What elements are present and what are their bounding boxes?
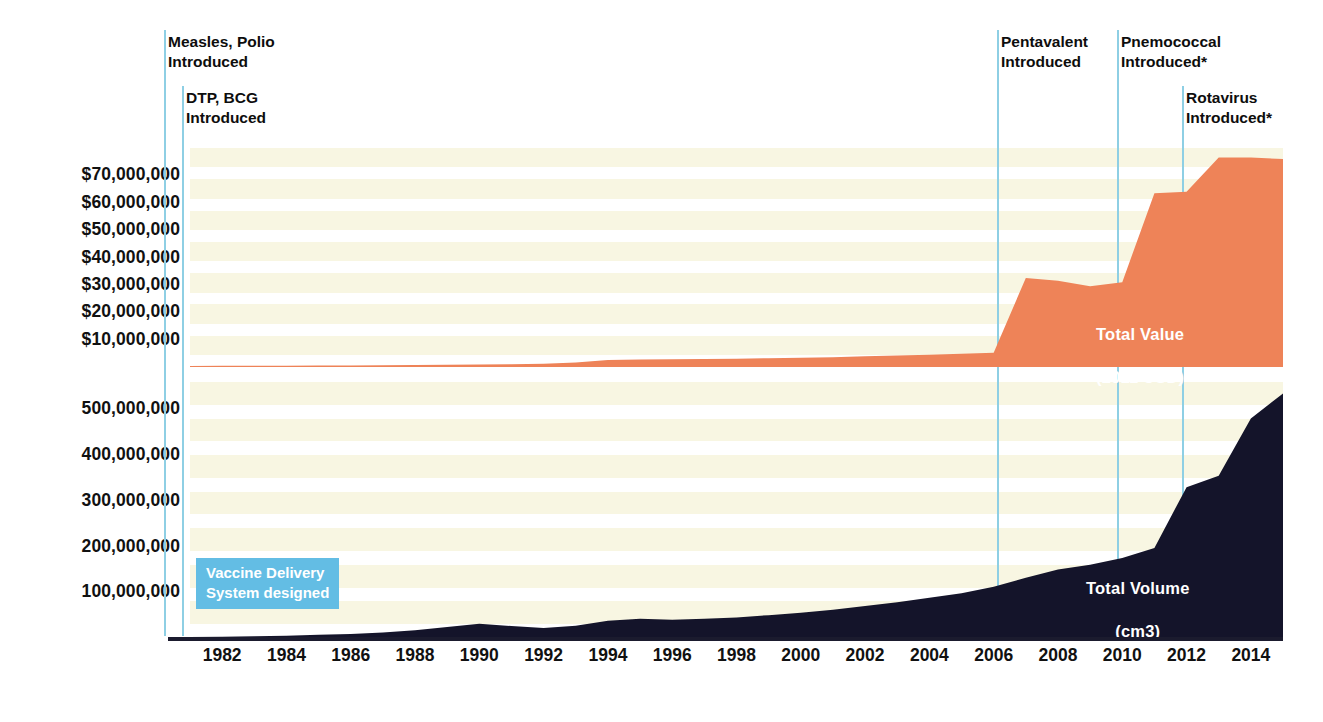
annotation-label-rotavirus: Rotavirus Introduced* — [1186, 88, 1272, 128]
x-axis-tick-label: 1982 — [203, 645, 242, 666]
x-axis-tick-label: 2008 — [1039, 645, 1078, 666]
series-label-total-value-line1: Total Value — [1096, 325, 1184, 343]
x-axis-line — [168, 637, 1283, 641]
x-axis-tick-label: 2002 — [846, 645, 885, 666]
series-label-total-volume-line1: Total Volume — [1086, 579, 1190, 597]
x-axis-tick-label: 1988 — [396, 645, 435, 666]
x-axis-tick-label: 1994 — [588, 645, 627, 666]
x-axis-tick-label: 2000 — [781, 645, 820, 666]
annotation-label-pnemococcal: Pnemococcal Introduced* — [1121, 32, 1221, 72]
x-axis-tick-label: 2006 — [974, 645, 1013, 666]
annotation-label-measles-polio: Measles, Polio Introduced — [168, 32, 275, 72]
chart-canvas: $70,000,000$60,000,000$50,000,000$40,000… — [0, 0, 1323, 722]
callout-vaccine-delivery-system: Vaccine Delivery System designed — [196, 558, 339, 609]
x-axis-tick-label: 2014 — [1231, 645, 1270, 666]
annotation-rule-dtp-bcg — [182, 86, 184, 636]
x-axis-tick-label: 2012 — [1167, 645, 1206, 666]
x-axis-tick-label: 1990 — [460, 645, 499, 666]
x-axis-tick-label: 1996 — [653, 645, 692, 666]
annotation-label-pentavalent: Pentavalent Introduced — [1001, 32, 1088, 72]
annotation-rule-measles-polio — [164, 30, 166, 636]
annotation-label-dtp-bcg: DTP, BCG Introduced — [186, 88, 266, 128]
x-axis-tick-label: 1998 — [717, 645, 756, 666]
x-axis-tick-label: 1986 — [331, 645, 370, 666]
x-axis-tick-label: 1992 — [524, 645, 563, 666]
x-axis-tick-label: 1984 — [267, 645, 306, 666]
series-label-total-value: Total Value (2011 USD) — [1096, 303, 1184, 389]
series-label-total-value-line2: (2011 USD) — [1096, 368, 1184, 386]
x-axis-tick-label: 2004 — [910, 645, 949, 666]
x-axis-tick-label: 2010 — [1103, 645, 1142, 666]
series-label-total-volume: Total Volume (cm3) — [1086, 557, 1190, 643]
